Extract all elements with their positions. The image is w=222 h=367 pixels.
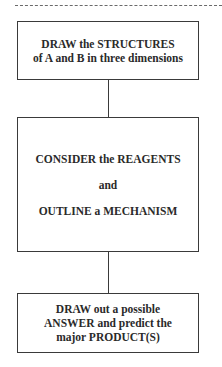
dashed-separator-line <box>15 5 222 6</box>
step-text-line: major PRODUCT(S) <box>56 330 160 344</box>
step-text-line: DRAW the STRUCTURES <box>41 37 174 51</box>
step-text-line: CONSIDER the REAGENTS <box>35 146 180 172</box>
flow-step-draw-answer: DRAW out a possible ANSWER and predict t… <box>17 293 199 353</box>
flow-step-consider-reagents: CONSIDER the REAGENTS and OUTLINE a MECH… <box>17 117 199 252</box>
step-text-line: DRAW out a possible <box>56 302 160 316</box>
step-text-line: ANSWER and predict the <box>44 316 172 330</box>
connector-line <box>108 79 109 117</box>
connector-line <box>108 251 109 293</box>
step-text-line: OUTLINE a MECHANISM <box>39 198 178 224</box>
flow-step-draw-structures: DRAW the STRUCTURES of A and B in three … <box>17 21 199 80</box>
step-text-line: and <box>99 172 118 198</box>
step-text-line: of A and B in three dimensions <box>33 51 183 65</box>
